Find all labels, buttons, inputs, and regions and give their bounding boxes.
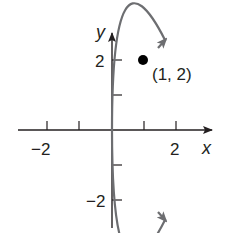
x-tick-label-neg2: −2 — [31, 140, 50, 159]
curve-arrow-top — [158, 39, 166, 48]
curve-arrow-bottom — [158, 212, 166, 221]
y-tick-label-neg2: −2 — [86, 192, 105, 211]
x-tick-label-pos2: 2 — [170, 140, 179, 159]
x-axis-label: x — [201, 138, 212, 158]
parabola-plot: (1, 2) x y −2 2 2 −2 — [0, 0, 226, 233]
point-1-2 — [138, 55, 148, 65]
parabola-curve — [112, 3, 165, 233]
y-axis-label: y — [94, 22, 106, 42]
point-label: (1, 2) — [152, 65, 192, 84]
y-tick-label-pos2: 2 — [95, 52, 104, 71]
